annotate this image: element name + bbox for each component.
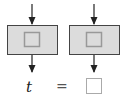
right-block — [70, 4, 120, 73]
left-input-arrowhead-icon — [29, 17, 36, 25]
left-output-arrowhead-icon — [29, 65, 36, 73]
answer-box[interactable] — [87, 79, 102, 94]
right-output-arrowhead-icon — [91, 65, 98, 73]
equals-sign: = — [56, 78, 68, 94]
right-block-inner-square — [87, 33, 102, 47]
left-block-inner-square — [25, 33, 40, 47]
left-block — [8, 4, 58, 73]
right-input-arrowhead-icon — [91, 17, 98, 25]
variable-t-label: t — [26, 78, 33, 96]
diagram-canvas: t = — [0, 0, 125, 97]
